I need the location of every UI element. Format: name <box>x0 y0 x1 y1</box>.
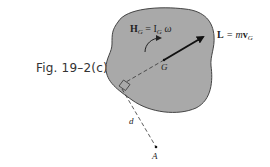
linear-momentum-label: L = mvG <box>217 29 253 42</box>
point-a-marker <box>155 146 158 149</box>
point-a-label: A <box>151 151 158 161</box>
center-of-mass-label: G <box>161 62 168 72</box>
rigid-body-shape <box>106 8 214 113</box>
distance-d-label: d <box>129 116 134 126</box>
rigid-body-diagram: HG = IG ω L = mvG G d A <box>0 0 270 167</box>
